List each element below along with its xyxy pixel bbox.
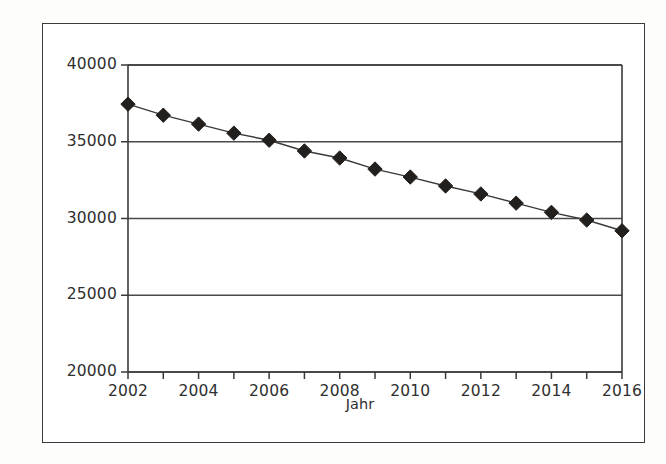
- data-point-marker: [333, 151, 347, 165]
- data-point-marker: [297, 144, 311, 158]
- data-point-marker: [368, 162, 382, 176]
- x-axis-tick-label: 2002: [98, 382, 158, 400]
- data-point-marker: [544, 205, 558, 219]
- x-axis-tick-label: 2012: [451, 382, 511, 400]
- y-axis-tick-label: 20000: [45, 362, 117, 380]
- y-axis-tick-label: 35000: [45, 132, 117, 150]
- x-axis-tick-label: 2004: [169, 382, 229, 400]
- x-axis-tick-label: 2006: [239, 382, 299, 400]
- data-point-marker: [580, 213, 594, 227]
- gridlines-group: [128, 65, 622, 372]
- data-markers-group: [121, 97, 629, 238]
- data-point-marker: [438, 179, 452, 193]
- x-axis-title: Jahr: [300, 396, 420, 412]
- y-axis-tick-label: 40000: [45, 55, 117, 73]
- data-point-marker: [191, 117, 205, 131]
- data-point-marker: [262, 133, 276, 147]
- y-axis-tick-label: 30000: [45, 209, 117, 227]
- data-point-marker: [156, 108, 170, 122]
- data-point-marker: [227, 126, 241, 140]
- data-point-marker: [474, 187, 488, 201]
- y-axis-tick-label: 25000: [45, 285, 117, 303]
- x-axis-tick-label: 2016: [592, 382, 652, 400]
- data-point-marker: [403, 170, 417, 184]
- data-point-marker: [509, 196, 523, 210]
- data-point-marker: [121, 97, 135, 111]
- data-point-marker: [615, 224, 629, 238]
- axes-group: [121, 65, 622, 379]
- x-axis-tick-label: 2014: [521, 382, 581, 400]
- chart-screenshot: 2000025000300003500040000 20022004200620…: [0, 0, 666, 464]
